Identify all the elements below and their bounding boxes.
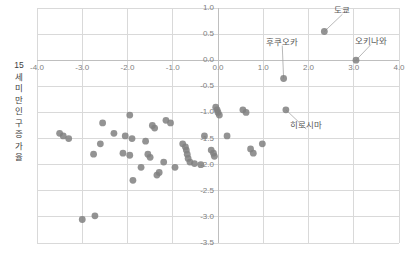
annotation-label: 오키나와 — [355, 34, 387, 46]
data-point — [147, 154, 154, 161]
data-point — [92, 212, 99, 219]
x-tick-label: 1.0 — [243, 63, 283, 72]
x-tick-label: 0.0 — [198, 63, 238, 72]
scatter-chart: 15세미만인구증가율 -4.0-3.0-2.0-1.00.01.02.03.04… — [0, 0, 416, 257]
data-point — [282, 106, 289, 113]
data-point — [250, 150, 257, 157]
y-tick-label: -3.0 — [174, 212, 214, 221]
y-tick-label: -2.5 — [174, 186, 214, 195]
data-point — [259, 140, 266, 147]
annotation-label: 히로시마 — [290, 118, 322, 130]
y-tick-label: -0.5 — [174, 81, 214, 90]
data-point — [122, 133, 129, 140]
data-point — [138, 164, 145, 171]
data-point — [129, 135, 136, 142]
x-tick-label: -2.0 — [108, 63, 148, 72]
data-point — [126, 152, 133, 159]
x-tick-label: 4.0 — [379, 63, 416, 72]
data-point — [111, 130, 118, 137]
y-tick-label: -2.0 — [174, 160, 214, 169]
data-point — [99, 119, 106, 126]
y-tick-label: -3.5 — [174, 238, 214, 247]
data-point — [97, 140, 104, 147]
data-point — [142, 138, 149, 145]
data-point — [243, 109, 250, 116]
x-tick-label: 3.0 — [334, 63, 374, 72]
annotation-label: 도쿄 — [334, 3, 350, 15]
data-point — [120, 150, 127, 157]
x-tick-label: 2.0 — [289, 63, 329, 72]
x-tick-label: -4.0 — [17, 63, 57, 72]
data-point — [90, 151, 97, 158]
data-point — [160, 159, 167, 166]
y-tick-label: 0.5 — [174, 29, 214, 38]
data-point — [167, 119, 174, 126]
data-point — [79, 216, 86, 223]
annotation-leader-line — [324, 14, 342, 31]
y-tick-label: -1.5 — [174, 134, 214, 143]
data-point — [216, 112, 223, 119]
annotation-leader-line — [282, 46, 283, 79]
x-tick-label: -3.0 — [62, 63, 102, 72]
data-point — [224, 133, 231, 140]
y-tick-label: 1.0 — [174, 3, 214, 12]
axis-lines — [37, 8, 399, 243]
data-point — [65, 135, 72, 142]
y-tick-label: -1.0 — [174, 107, 214, 116]
x-tick-label: -1.0 — [153, 63, 193, 72]
data-point — [130, 177, 137, 184]
data-point — [151, 125, 158, 132]
y-tick-label: 0.0 — [174, 55, 214, 64]
data-point — [321, 28, 328, 35]
annotation-label: 후쿠오카 — [266, 35, 298, 47]
data-point — [280, 75, 287, 82]
data-point — [126, 112, 133, 119]
data-point — [154, 172, 161, 179]
